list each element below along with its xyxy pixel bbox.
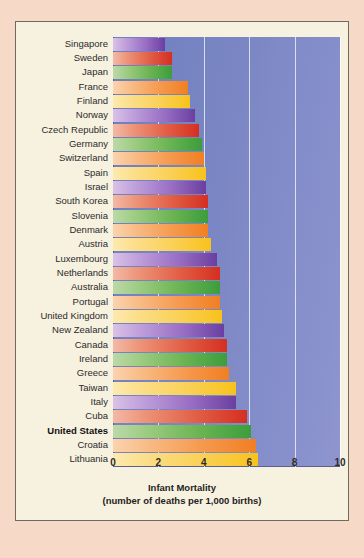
bar-croatia	[113, 439, 256, 452]
bar-canada	[113, 339, 227, 352]
category-label-spain: Spain	[84, 166, 108, 179]
category-label-sweden: Sweden	[74, 51, 108, 64]
category-label-greece: Greece	[77, 366, 108, 379]
bar-australia	[113, 281, 220, 294]
bar-netherlands	[113, 267, 220, 280]
x-tick-6: 6	[229, 457, 269, 468]
category-label-austria: Austria	[78, 237, 108, 250]
bar-sweden	[113, 52, 172, 65]
bar-taiwan	[113, 382, 236, 395]
bar-czech-republic	[113, 124, 199, 137]
category-label-germany: Germany	[69, 137, 108, 150]
category-label-norway: Norway	[76, 108, 108, 121]
category-label-france: France	[78, 80, 108, 93]
category-label-united-states: United States	[47, 424, 108, 437]
bar-row: South Korea	[113, 195, 340, 208]
bar-switzerland	[113, 152, 204, 165]
bar-row: United States	[113, 425, 340, 438]
bar-norway	[113, 109, 195, 122]
bar-row: Czech Republic	[113, 124, 340, 137]
bar-row: New Zealand	[113, 324, 340, 337]
gridline-10	[340, 37, 341, 467]
category-label-portugal: Portugal	[73, 295, 108, 308]
bar-row: Finland	[113, 95, 340, 108]
bar-row: Croatia	[113, 439, 340, 452]
bar-row: Italy	[113, 396, 340, 409]
bar-row: Sweden	[113, 52, 340, 65]
bar-greece	[113, 367, 229, 380]
bar-row: Norway	[113, 109, 340, 122]
category-label-taiwan: Taiwan	[78, 381, 108, 394]
bar-row: United Kingdom	[113, 310, 340, 323]
bar-cuba	[113, 410, 247, 423]
bar-row: Cuba	[113, 410, 340, 423]
bar-row: Israel	[113, 181, 340, 194]
bar-row: Spain	[113, 167, 340, 180]
bar-south-korea	[113, 195, 208, 208]
x-tick-4: 4	[184, 457, 224, 468]
category-label-italy: Italy	[91, 395, 108, 408]
x-tick-0: 0	[93, 457, 133, 468]
bar-row: Japan	[113, 66, 340, 79]
category-label-luxembourg: Luxembourg	[55, 252, 108, 265]
category-label-cuba: Cuba	[85, 409, 108, 422]
x-axis-title: Infant Mortality (number of deaths per 1…	[16, 481, 348, 507]
bar-row: Ireland	[113, 353, 340, 366]
x-axis-title-main: Infant Mortality	[16, 481, 348, 494]
category-label-israel: Israel	[85, 180, 108, 193]
x-tick-2: 2	[138, 457, 178, 468]
x-axis-title-sub: (number of deaths per 1,000 births)	[16, 494, 348, 507]
bar-spain	[113, 167, 206, 180]
category-label-croatia: Croatia	[77, 438, 108, 451]
category-label-ireland: Ireland	[79, 352, 108, 365]
category-label-denmark: Denmark	[69, 223, 108, 236]
bar-japan	[113, 66, 172, 79]
bar-row: Taiwan	[113, 382, 340, 395]
bar-row: Luxembourg	[113, 253, 340, 266]
chart-figure: SingaporeSwedenJapanFranceFinlandNorwayC…	[15, 21, 349, 521]
category-label-netherlands: Netherlands	[57, 266, 108, 279]
bar-united-states	[113, 425, 251, 438]
bar-israel	[113, 181, 206, 194]
bar-row: Germany	[113, 138, 340, 151]
category-label-czech-republic: Czech Republic	[41, 123, 108, 136]
bar-france	[113, 81, 188, 94]
bar-row: Netherlands	[113, 267, 340, 280]
category-label-south-korea: South Korea	[55, 194, 108, 207]
bar-luxembourg	[113, 253, 217, 266]
bar-ireland	[113, 353, 227, 366]
x-tick-8: 8	[275, 457, 315, 468]
bar-row: France	[113, 81, 340, 94]
bar-finland	[113, 95, 190, 108]
category-label-canada: Canada	[75, 338, 108, 351]
bar-united-kingdom	[113, 310, 222, 323]
bar-row: Austria	[113, 238, 340, 251]
category-label-switzerland: Switzerland	[59, 151, 108, 164]
bar-row: Canada	[113, 339, 340, 352]
bar-new-zealand	[113, 324, 224, 337]
bar-slovenia	[113, 210, 208, 223]
bar-singapore	[113, 38, 165, 51]
bar-portugal	[113, 296, 220, 309]
bar-italy	[113, 396, 236, 409]
bar-row: Slovenia	[113, 210, 340, 223]
category-label-australia: Australia	[71, 280, 108, 293]
bar-denmark	[113, 224, 208, 237]
bar-austria	[113, 238, 211, 251]
category-label-slovenia: Slovenia	[72, 209, 108, 222]
category-label-finland: Finland	[77, 94, 108, 107]
category-label-new-zealand: New Zealand	[52, 323, 108, 336]
category-label-singapore: Singapore	[65, 37, 108, 50]
category-label-japan: Japan	[82, 65, 108, 78]
bar-row: Greece	[113, 367, 340, 380]
plot-area: SingaporeSwedenJapanFranceFinlandNorwayC…	[113, 37, 340, 467]
bar-row: Denmark	[113, 224, 340, 237]
bar-row: Australia	[113, 281, 340, 294]
category-label-united-kingdom: United Kingdom	[40, 309, 108, 322]
bar-row: Singapore	[113, 38, 340, 51]
x-tick-10: 10	[320, 457, 360, 468]
bar-row: Portugal	[113, 296, 340, 309]
bar-germany	[113, 138, 202, 151]
bar-row: Switzerland	[113, 152, 340, 165]
